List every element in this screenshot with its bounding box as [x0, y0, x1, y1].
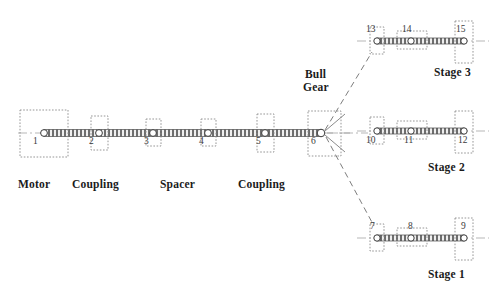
- stage-1-shaft: [377, 235, 464, 241]
- label-spacer: Spacer: [160, 178, 195, 190]
- label-stage-2: Stage 2: [428, 161, 465, 173]
- mesh-tick-lower: [325, 135, 345, 152]
- node-number-8: 8: [408, 221, 413, 231]
- node-11-marker: [408, 128, 414, 134]
- node-number-3: 3: [144, 136, 149, 146]
- label-motor: Motor: [18, 178, 50, 190]
- stage-2-shaft: [377, 128, 464, 134]
- node-3-marker: [150, 130, 157, 137]
- stage-3-group: [357, 21, 489, 63]
- node-number-15: 15: [456, 24, 466, 34]
- node-number-1: 1: [33, 136, 38, 146]
- node-number-11: 11: [404, 135, 413, 145]
- main-shaft-group: [18, 110, 352, 157]
- node-number-13: 13: [366, 24, 376, 34]
- label-stage-1: Stage 1: [428, 268, 465, 280]
- node-number-4: 4: [199, 136, 204, 146]
- node-4-marker: [205, 130, 212, 137]
- node-2-marker: [96, 130, 103, 137]
- node-number-5: 5: [256, 136, 261, 146]
- node-5-marker: [262, 130, 269, 137]
- mesh-line-stage-1: [326, 137, 374, 226]
- stage-3-shaft: [377, 38, 464, 44]
- node-8-marker: [408, 235, 414, 241]
- label-coupling-1: Coupling: [72, 178, 119, 190]
- node-13-marker: [374, 38, 380, 44]
- mesh-line-stage-3: [325, 52, 372, 130]
- node-6-marker: [317, 129, 325, 137]
- node-number-6: 6: [311, 136, 316, 146]
- node-number-12: 12: [458, 135, 468, 145]
- label-bull-gear-line-1: Bull: [305, 68, 326, 81]
- node-number-9: 9: [461, 221, 466, 231]
- node-7-marker: [374, 235, 380, 241]
- node-10-marker: [374, 128, 380, 134]
- label-bull-gear-line-2: Gear: [303, 81, 329, 94]
- node-12-marker: [461, 128, 467, 134]
- main-shaft-body: [44, 130, 322, 137]
- node-number-7: 7: [370, 221, 375, 231]
- node-number-10: 10: [366, 135, 376, 145]
- node-number-2: 2: [89, 136, 94, 146]
- node-1-marker: [41, 130, 48, 137]
- mesh-tick-upper: [325, 114, 345, 131]
- label-coupling-2: Coupling: [238, 178, 285, 190]
- node-number-14: 14: [402, 24, 412, 34]
- stage-2-group: [357, 111, 489, 153]
- stage-1-group: [357, 218, 489, 260]
- node-9-marker: [461, 235, 467, 241]
- node-15-marker: [461, 38, 467, 44]
- label-stage-3: Stage 3: [434, 66, 471, 78]
- gearbox-train-diagram: [0, 0, 501, 306]
- node-14-marker: [408, 38, 414, 44]
